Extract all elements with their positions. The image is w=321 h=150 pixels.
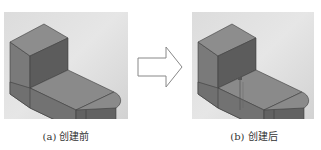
caption-before: (a) 创建前 — [43, 128, 90, 143]
caption-after: (b) 创建后 — [230, 128, 277, 143]
part-model-before — [4, 12, 128, 119]
part-model-after — [192, 12, 314, 119]
panel-after — [192, 12, 314, 119]
right-arrow-icon — [136, 44, 184, 90]
panel-before — [4, 12, 128, 119]
